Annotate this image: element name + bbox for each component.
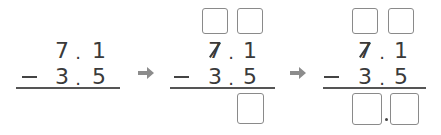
borrow-box-ones[interactable] [202, 8, 228, 34]
arrow-right-icon [138, 67, 154, 79]
minus-sign [324, 76, 339, 78]
subtrahend-tenths: 5 [393, 66, 409, 88]
answer-decimal-point [385, 118, 388, 121]
minuend-tenths: 1 [242, 40, 258, 62]
subtrahend-point: . [73, 70, 83, 88]
answer-box-tenths[interactable] [237, 93, 264, 124]
answer-box-ones[interactable] [352, 93, 382, 125]
subtrahend-ones: 3 [54, 66, 70, 88]
minuend-point: . [226, 44, 236, 62]
minuend-ones: 7 [54, 40, 70, 62]
borrow-box-tenths[interactable] [237, 8, 263, 34]
arrow-right-icon [290, 67, 306, 79]
minuend-tenths: 1 [91, 40, 107, 62]
sum-line [323, 87, 426, 89]
sum-line [16, 87, 120, 89]
borrow-box-tenths[interactable] [388, 8, 414, 34]
sum-line [170, 87, 275, 89]
minus-sign [174, 76, 189, 78]
subtrahend-point: . [377, 70, 387, 88]
minuend-point: . [377, 44, 387, 62]
subtrahend-ones: 3 [357, 66, 373, 88]
answer-box-tenths[interactable] [390, 93, 419, 125]
minuend-tenths: 1 [393, 40, 409, 62]
minuend-point: . [73, 44, 83, 62]
minus-sign [22, 76, 37, 78]
subtrahend-tenths: 5 [242, 66, 258, 88]
subtrahend-point: . [226, 70, 236, 88]
borrow-box-ones[interactable] [352, 8, 378, 34]
subtrahend-ones: 3 [207, 66, 223, 88]
subtrahend-tenths: 5 [91, 66, 107, 88]
